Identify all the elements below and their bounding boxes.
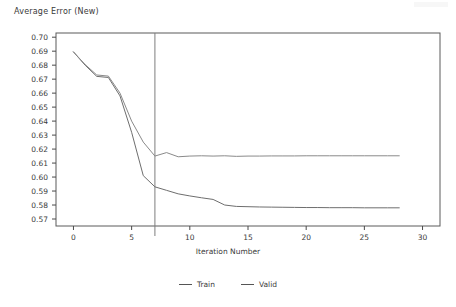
legend-label-valid: Valid <box>259 281 277 289</box>
x-axis-tick-label: 25 <box>360 233 370 242</box>
legend-line-icon <box>241 284 254 285</box>
legend-item-train[interactable]: Train <box>179 281 215 289</box>
x-axis-tick-label: 15 <box>243 233 253 242</box>
x-axis-label: Iteration Number <box>0 247 456 256</box>
y-axis-tick-label: 0.67 <box>31 75 48 84</box>
y-axis-tick-label: 0.57 <box>31 215 48 224</box>
y-axis-tick-label: 0.66 <box>31 89 48 98</box>
x-axis-tick-label: 30 <box>418 233 428 242</box>
x-axis-tick-label: 5 <box>129 233 134 242</box>
legend-item-valid[interactable]: Valid <box>241 281 277 289</box>
x-axis-tick-label: 20 <box>301 233 311 242</box>
y-axis-tick-label: 0.62 <box>31 145 48 154</box>
y-axis-tick-label: 0.68 <box>31 61 48 70</box>
plot-frame <box>56 33 440 226</box>
y-axis-tick-label: 0.58 <box>31 201 48 210</box>
y-axis-tick-label: 0.59 <box>31 187 48 196</box>
plot-area: 0.570.580.590.600.610.620.630.640.650.66… <box>0 0 456 307</box>
y-axis-tick-label: 0.64 <box>31 117 48 126</box>
y-axis-tick-label: 0.65 <box>31 103 48 112</box>
x-axis-tick-label: 0 <box>71 233 76 242</box>
y-axis-tick-label: 0.69 <box>31 47 48 56</box>
y-axis-tick-label: 0.60 <box>31 173 48 182</box>
average-error-chart: Average Error (New) 0.570.580.590.600.61… <box>0 0 456 307</box>
legend-line-icon <box>179 284 192 285</box>
y-axis-tick-label: 0.70 <box>31 33 48 42</box>
y-axis-tick-label: 0.63 <box>31 131 48 140</box>
chart-legend: Train Valid <box>0 281 456 289</box>
x-axis-tick-label: 10 <box>185 233 195 242</box>
legend-label-train: Train <box>197 281 215 289</box>
y-axis-tick-label: 0.61 <box>31 159 48 168</box>
